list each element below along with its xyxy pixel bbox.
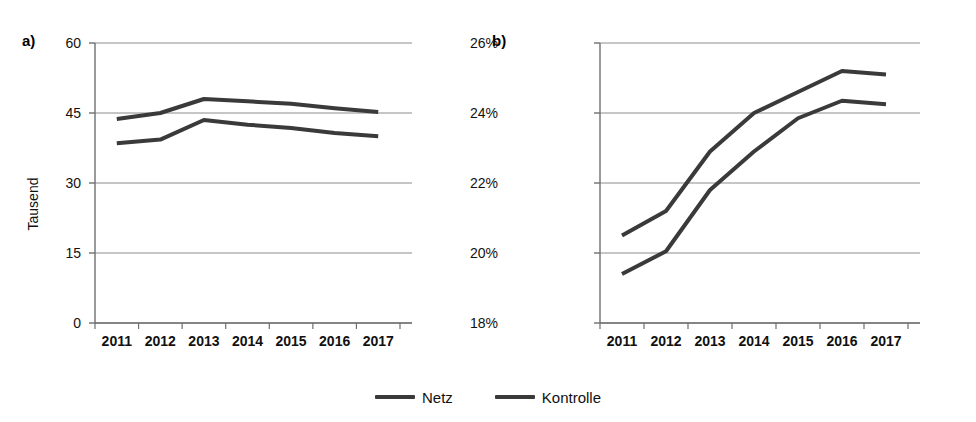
panel-a-plot-area xyxy=(0,0,470,372)
panel-b-series-kontrolle xyxy=(622,101,886,274)
chart-panel-b: b) 26%24%22%20%18% 201120122013201420152… xyxy=(470,0,976,372)
figure-two-panel-line-charts: a) Tausend 604530150 2011201220132014201… xyxy=(0,0,976,422)
legend-line-swatch-icon xyxy=(495,395,535,399)
chart-panel-a: a) Tausend 604530150 2011201220132014201… xyxy=(0,0,470,372)
legend-item-netz: Netz xyxy=(375,389,453,406)
panel-a-series-netz xyxy=(117,99,378,119)
legend-item-kontrolle: Kontrolle xyxy=(495,389,601,406)
panel-b-plot-area xyxy=(470,0,976,372)
legend-label-kontrolle: Kontrolle xyxy=(542,389,601,406)
legend-line-swatch-icon xyxy=(375,395,415,399)
chart-legend: Netz Kontrolle xyxy=(0,372,976,422)
panel-a-series-kontrolle xyxy=(117,120,378,143)
legend-label-netz: Netz xyxy=(422,389,453,406)
